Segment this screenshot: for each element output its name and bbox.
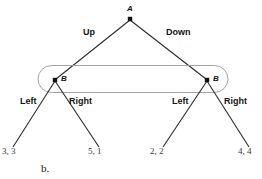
edge-right-2 (207, 81, 249, 147)
action-label-left-1: Left (20, 97, 37, 106)
edge-left-1 (13, 81, 55, 147)
payoff-label-2: 5, 1 (88, 147, 102, 156)
node-label-b-right: B (213, 75, 219, 83)
node-b1-marker (53, 78, 57, 82)
node-label-b-left: B (61, 75, 67, 83)
edge-right-1 (55, 81, 99, 147)
node-a-marker (128, 17, 132, 21)
action-label-right-2: Right (224, 97, 247, 106)
node-b2-marker (205, 78, 209, 82)
edge-left-2 (163, 81, 207, 147)
payoff-label-4: 4, 4 (238, 147, 252, 156)
payoff-label-3: 2, 2 (150, 147, 164, 156)
action-label-right-1: Right (69, 97, 92, 106)
node-label-a: A (127, 5, 133, 13)
game-tree-canvas (0, 0, 262, 179)
action-label-left-2: Left (172, 97, 189, 106)
figure-caption: b. (41, 163, 49, 174)
action-label-down: Down (166, 28, 191, 37)
action-label-up: Up (83, 28, 95, 37)
payoff-label-1: 3, 3 (2, 147, 16, 156)
game-tree-figure: A B B Up Down Left Right Left Right 3, 3… (0, 0, 262, 179)
